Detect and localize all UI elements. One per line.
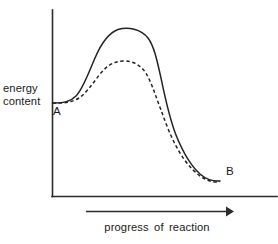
right-arrow-icon: [226, 207, 234, 217]
uncatalysed-energy-curve: [53, 28, 221, 181]
x-axis-label: progress of reaction: [52, 221, 262, 234]
energy-profile-figure: energy content A B progress of reaction: [0, 0, 278, 244]
plot-canvas: [0, 0, 278, 244]
catalysed-energy-curve: [53, 61, 221, 182]
label-point-a: A: [53, 105, 61, 117]
y-axis-label: energy content: [3, 82, 51, 107]
label-point-b: B: [226, 165, 234, 177]
